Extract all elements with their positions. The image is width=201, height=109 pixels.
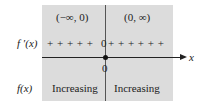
x-axis-tick-zero: 0 [102,62,108,74]
behavior-right: Increasing [114,82,160,94]
critical-point-divider [105,5,106,101]
left-signs: + + + + + [47,37,94,49]
behavior-left: Increasing [52,82,98,94]
interval-right-label: (0, ∞) [124,11,150,23]
x-axis-line [42,57,182,58]
interval-left-label: (−∞, 0) [56,11,88,23]
right-signs: + + + + + + [108,37,164,49]
derivative-row-label: f ′(x) [17,37,37,49]
function-row-label: f(x) [17,82,32,94]
derivative-zero: 0 [101,37,107,49]
x-axis-arrow-icon [180,54,187,60]
critical-point-dot [103,55,108,60]
x-axis-label: x [189,51,194,63]
